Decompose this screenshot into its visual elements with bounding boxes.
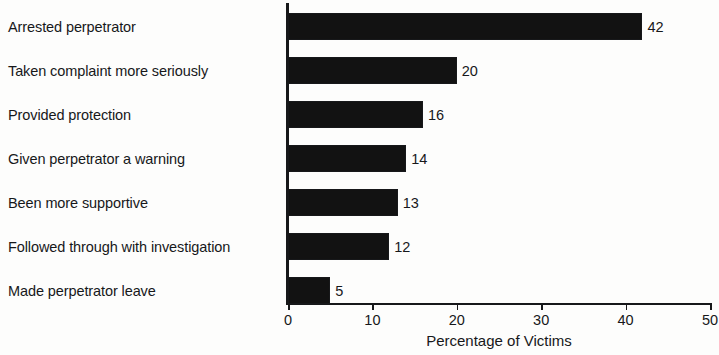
bar-value-label: 12 [394, 240, 410, 255]
bar [288, 57, 457, 84]
x-axis-tick-label: 10 [364, 313, 380, 328]
x-axis-tick [710, 303, 712, 310]
x-axis-tick-label: 0 [284, 313, 292, 328]
bar [288, 277, 330, 304]
x-axis-tick [626, 303, 628, 310]
bar-value-label: 5 [335, 284, 343, 299]
x-axis-tick [288, 303, 290, 310]
bar-value-label: 16 [428, 108, 444, 123]
category-label: Arrested perpetrator [8, 20, 286, 35]
x-axis-tick-label: 40 [618, 313, 634, 328]
bar [288, 101, 423, 128]
bar [288, 145, 406, 172]
bar-value-label: 13 [403, 196, 419, 211]
category-axis-labels: Arrested perpetratorTaken complaint more… [0, 0, 286, 303]
plot-area: 422016141312501020304050 [288, 3, 710, 303]
bar [288, 13, 642, 40]
x-axis-tick [541, 303, 543, 310]
bar-chart: Arrested perpetratorTaken complaint more… [0, 0, 719, 355]
x-axis-tick-label: 50 [702, 313, 718, 328]
category-label: Been more supportive [8, 196, 286, 211]
category-label: Made perpetrator leave [8, 284, 286, 299]
category-label: Given perpetrator a warning [8, 152, 286, 167]
category-label: Taken complaint more seriously [8, 64, 286, 79]
x-axis-title: Percentage of Victims [288, 333, 710, 348]
bar-value-label: 42 [647, 20, 663, 35]
bar-value-label: 14 [411, 152, 427, 167]
x-axis-tick-label: 30 [533, 313, 549, 328]
bar [288, 233, 389, 260]
category-label: Followed through with investigation [8, 240, 286, 255]
bar [288, 189, 398, 216]
x-axis-line [286, 303, 710, 305]
category-label: Provided protection [8, 108, 286, 123]
x-axis-tick [457, 303, 459, 310]
bar-value-label: 20 [462, 64, 478, 79]
x-axis-tick-label: 20 [449, 313, 465, 328]
x-axis-tick [372, 303, 374, 310]
